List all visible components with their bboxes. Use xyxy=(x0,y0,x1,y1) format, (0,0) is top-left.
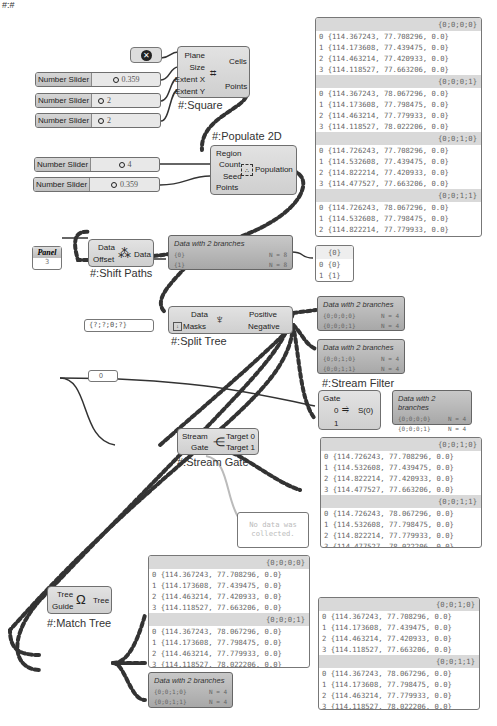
slider-value[interactable]: 0.359 xyxy=(90,178,159,191)
match-tree-component[interactable]: Tree Guide Ω Tree xyxy=(47,586,112,614)
output-target-0[interactable]: Target 0 xyxy=(226,432,255,441)
output-population[interactable]: Population xyxy=(255,165,293,174)
list-item: 0 {114.367243, 78.067296, 0.0} xyxy=(319,668,479,679)
branch-header: {0;0;0;0} xyxy=(149,556,309,569)
list-item: 1 {114.532608, 77.798475, 0.0} xyxy=(316,213,481,224)
stream-gate-component[interactable]: Stream Gate ⋲ Target 0 Target 1 xyxy=(177,428,259,455)
list-item: 1 {114.173608, 77.439475, 0.0} xyxy=(316,42,481,53)
shift-paths-component[interactable]: Data Offset ⁂ Data xyxy=(88,239,154,267)
input-masks[interactable]: Masks xyxy=(183,322,206,331)
param-viewer-positive[interactable]: Data with 2 branches {0;0;0;0}N = 4 {0;0… xyxy=(317,296,405,331)
input-gate[interactable]: Gate xyxy=(323,394,340,403)
viewer-title: Data with 2 branches xyxy=(149,673,232,687)
list-item: 1 {1} xyxy=(316,270,353,281)
list-item: 3 {114.118527, 77.663206, 0.0} xyxy=(316,64,481,75)
points-panel-gate[interactable]: {0;0;1;0} 0 {114.726243, 77.708296, 0.0}… xyxy=(320,437,482,548)
output-positive[interactable]: Positive xyxy=(249,310,277,319)
slider-value[interactable]: 0.359 xyxy=(92,73,160,86)
paths-panel[interactable]: {0} 0 {0} 1 {1} xyxy=(315,245,354,282)
slider-knob-icon[interactable] xyxy=(113,77,119,83)
list-item: 3 {114.477527, 78.022206, 0.0} xyxy=(316,235,481,237)
input-plane[interactable]: Plane xyxy=(185,51,205,60)
list-item: 2 {114.822214, 77.779933, 0.0} xyxy=(321,530,481,541)
list-icon: ↓ xyxy=(173,322,182,331)
split-tree-component[interactable]: Data ↓ Masks ♆ Positive Negative xyxy=(168,306,293,334)
populate2d-label: #:Populate 2D xyxy=(212,130,282,142)
slider-value[interactable]: 2 xyxy=(92,94,160,107)
slider-knob-icon[interactable] xyxy=(119,162,125,168)
input-region[interactable]: Region xyxy=(216,149,241,158)
input-extent-y[interactable]: Extent Y xyxy=(175,87,205,96)
input-0[interactable]: 0 xyxy=(334,406,338,415)
empty-text: collected. xyxy=(238,529,308,538)
input-data[interactable]: Data xyxy=(191,310,208,319)
viewer-title: Data with 2 branches xyxy=(393,391,471,414)
input-extent-x[interactable]: Extent X xyxy=(175,75,205,84)
branch-header: {0;0;1;1} xyxy=(319,655,479,668)
number-slider-extent-x[interactable]: Number Slider 2 xyxy=(35,93,161,108)
split-tree-label: #:Split Tree xyxy=(171,335,227,347)
stream-filter-label: #:Stream Filter xyxy=(322,377,394,389)
slider-value[interactable]: 4 xyxy=(91,158,159,171)
list-item: 0 {114.726243, 77.708296, 0.0} xyxy=(321,451,481,462)
output-tree[interactable]: Tree xyxy=(93,596,109,605)
input-1[interactable]: 1 xyxy=(334,419,338,428)
number-slider-count[interactable]: Number Slider 4 xyxy=(34,157,160,172)
input-data[interactable]: Data xyxy=(98,243,115,252)
branch-header: {0;0;1;1} xyxy=(316,189,481,202)
output-target-1[interactable]: Target 1 xyxy=(226,443,255,452)
output-cells[interactable]: Cells xyxy=(229,57,247,66)
points-panel-match-2[interactable]: {0;0;1;0} 0 {114.367243, 77.708296, 0.0}… xyxy=(318,597,480,710)
output-negative[interactable]: Negative xyxy=(248,322,280,331)
list-item: 0 {114.367243, 77.708296, 0.0} xyxy=(149,569,309,580)
param-viewer-shift[interactable]: Data with 2 branches {0}N = 8 {1}N = 8 xyxy=(168,235,293,270)
corner-label: #:# xyxy=(2,0,15,10)
points-panel-top[interactable]: {0;0;0;0} 0 {114.367243, 77.708296, 0.0}… xyxy=(315,17,482,237)
branch-header: {0;0;1;0} xyxy=(316,132,481,145)
slider-name: Number Slider xyxy=(36,73,92,86)
list-item: 0 {114.726243, 77.708296, 0.0} xyxy=(316,145,481,156)
input-offset[interactable]: Offset xyxy=(93,255,114,264)
slider-name: Number Slider xyxy=(35,158,91,171)
param-viewer-negative[interactable]: Data with 2 branches {0;0;1;0}N = 4 {0;0… xyxy=(317,339,405,374)
number-slider-seed[interactable]: Number Slider 0.359 xyxy=(33,177,160,192)
input-tree[interactable]: Tree xyxy=(57,590,73,599)
output-points[interactable]: Points xyxy=(225,82,247,91)
populate2d-component[interactable]: Region Count Seed Points ∴ Population xyxy=(210,145,297,195)
param-viewer-filter[interactable]: Data with 2 branches {0;0;0;0}N = 4 {0;0… xyxy=(392,390,472,425)
input-guide[interactable]: Guide xyxy=(52,602,73,611)
input-count[interactable]: Count xyxy=(219,160,240,169)
boolean-toggle[interactable]: ✕ xyxy=(130,47,162,63)
output-s0[interactable]: S(0) xyxy=(358,406,373,415)
list-item: 0 {114.726243, 78.067296, 0.0} xyxy=(316,202,481,213)
slider-knob-icon[interactable] xyxy=(98,98,104,104)
list-item: 0 {114.367243, 77.708296, 0.0} xyxy=(316,31,481,42)
points-panel-match[interactable]: {0;0;0;0} 0 {114.367243, 77.708296, 0.0}… xyxy=(148,555,310,668)
input-stream[interactable]: Stream xyxy=(182,432,208,441)
slider-knob-icon[interactable] xyxy=(98,118,104,124)
offset-panel[interactable]: Panel 3 xyxy=(32,246,62,270)
slider-knob-icon[interactable] xyxy=(111,182,117,188)
number-slider-extent-y[interactable]: Number Slider 2 xyxy=(35,113,161,128)
list-item: 1 {114.173608, 77.798475, 0.0} xyxy=(316,99,481,110)
stream-filter-component[interactable]: Gate 0 1 ⥤ S(0) xyxy=(318,390,381,430)
list-item: 3 {114.118527, 77.663206, 0.0} xyxy=(319,644,479,655)
gate-input-panel[interactable]: 0 xyxy=(88,370,118,382)
empty-panel[interactable]: No data was collected. xyxy=(237,512,309,548)
list-item: 2 {114.822214, 77.420933, 0.0} xyxy=(316,167,481,178)
match-tree-label: #:Match Tree xyxy=(47,617,111,629)
param-viewer-match[interactable]: Data with 2 branches {0;0;1;0}N = 4 {0;0… xyxy=(148,672,233,708)
mask-input-panel[interactable]: {?;?;0;?} xyxy=(84,319,154,332)
input-size[interactable]: Size xyxy=(189,63,205,72)
list-item: 0 {114.726243, 78.067296, 0.0} xyxy=(321,508,481,519)
number-slider-size[interactable]: Number Slider 0.359 xyxy=(35,72,161,87)
slider-value[interactable]: 2 xyxy=(92,114,160,127)
input-gate[interactable]: Gate xyxy=(191,443,208,452)
panel-value[interactable]: 3 xyxy=(33,258,61,266)
input-seed[interactable]: Seed xyxy=(223,172,242,181)
square-component[interactable]: Plane Size Extent X Extent Y ⌗ Cells Poi… xyxy=(177,46,250,98)
output-data[interactable]: Data xyxy=(134,250,151,259)
list-item: 1 {114.173608, 77.798475, 0.0} xyxy=(149,637,309,648)
list-item: 3 {114.118527, 78.022206, 0.0} xyxy=(149,659,309,668)
input-points[interactable]: Points xyxy=(216,183,238,192)
